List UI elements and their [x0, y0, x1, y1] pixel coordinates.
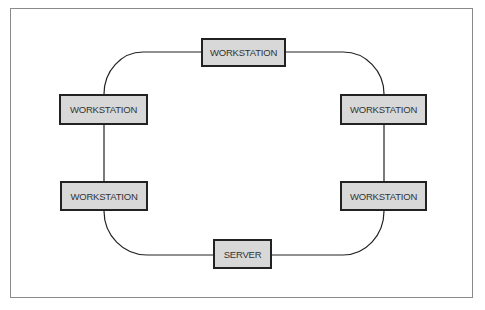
node-label: SERVER [224, 249, 262, 260]
link-top-to-right-upper [286, 52, 384, 94]
node-label: WORKSTATION [350, 191, 417, 202]
workstation-node-right-upper: WORKSTATION [340, 94, 427, 125]
link-right-lower-to-server [272, 211, 384, 255]
workstation-node-left-upper: WORKSTATION [59, 94, 148, 125]
node-label: WORKSTATION [350, 104, 417, 115]
node-label: WORKSTATION [70, 191, 137, 202]
workstation-node-top: WORKSTATION [201, 38, 286, 67]
node-label: WORKSTATION [210, 47, 277, 58]
workstation-node-left-lower: WORKSTATION [60, 181, 148, 211]
server-node-bottom: SERVER [213, 239, 272, 269]
node-label: WORKSTATION [70, 104, 137, 115]
link-left-upper-to-top [104, 52, 201, 94]
workstation-node-right-lower: WORKSTATION [340, 181, 427, 211]
link-server-to-left-lower [104, 211, 213, 255]
